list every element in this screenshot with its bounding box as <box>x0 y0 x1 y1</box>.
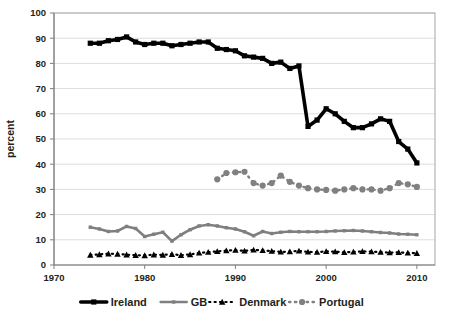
legend-label-denmark[interactable]: Denmark <box>239 296 287 308</box>
series-marker-gb <box>170 239 173 242</box>
series-marker-ireland <box>97 41 102 46</box>
series-marker-gb <box>261 230 264 233</box>
series-marker-ireland <box>124 34 129 39</box>
series-marker-gb <box>252 234 255 237</box>
y-axis-tick-label: 70 <box>35 83 46 94</box>
series-marker-ireland <box>151 41 156 46</box>
series-marker-ireland <box>115 37 120 42</box>
series-marker-gb <box>152 233 155 236</box>
series-marker-ireland <box>206 39 211 44</box>
series-marker-ireland <box>88 41 93 46</box>
series-marker-portugal <box>278 172 284 178</box>
series-marker-gb <box>388 231 391 234</box>
series-marker-ireland <box>342 119 347 124</box>
series-marker-gb <box>297 230 300 233</box>
series-marker-ireland <box>260 56 265 61</box>
series-marker-gb <box>334 229 337 232</box>
series-marker-portugal <box>314 186 320 192</box>
x-axis-tick-label: 1970 <box>43 272 64 283</box>
y-axis-tick-label: 40 <box>35 159 46 170</box>
series-marker-gb <box>225 226 228 229</box>
series-marker-portugal <box>305 185 311 191</box>
series-marker-portugal <box>359 186 365 192</box>
series-marker-ireland <box>278 60 283 65</box>
series-marker-gb <box>343 229 346 232</box>
series-marker-gb <box>107 230 110 233</box>
legend-label-gb[interactable]: GB <box>191 296 208 308</box>
x-axis-tick-label: 1990 <box>225 272 246 283</box>
series-marker-portugal <box>241 169 247 175</box>
x-axis-tick-label: 2000 <box>316 272 337 283</box>
series-marker-gb <box>361 229 364 232</box>
series-marker-gb <box>279 231 282 234</box>
series-marker-portugal <box>287 179 293 185</box>
series-marker-gb <box>234 227 237 230</box>
legend-label-ireland[interactable]: Ireland <box>111 296 147 308</box>
series-marker-ireland <box>351 125 356 130</box>
series-marker-portugal <box>296 183 302 189</box>
series-marker-ireland <box>314 118 319 123</box>
legend-marker-portugal <box>299 299 305 305</box>
x-axis-tick-label: 2010 <box>406 272 427 283</box>
y-axis-tick-label: 10 <box>35 234 46 245</box>
y-axis-tick-label: 0 <box>41 259 46 270</box>
series-marker-ireland <box>378 116 383 121</box>
series-marker-gb <box>89 226 92 229</box>
y-axis-tick-label: 90 <box>35 33 46 44</box>
series-marker-portugal <box>396 180 402 186</box>
series-marker-gb <box>116 229 119 232</box>
series-marker-gb <box>207 223 210 226</box>
series-marker-ireland <box>296 63 301 68</box>
y-axis-tick-label: 100 <box>30 7 46 18</box>
series-marker-portugal <box>414 184 420 190</box>
series-marker-ireland <box>396 139 401 144</box>
series-marker-gb <box>315 230 318 233</box>
legend-marker-gb <box>172 300 175 303</box>
series-marker-gb <box>143 235 146 238</box>
series-marker-portugal <box>405 181 411 187</box>
series-marker-gb <box>134 227 137 230</box>
series-marker-portugal <box>269 180 275 186</box>
series-marker-gb <box>98 227 101 230</box>
series-marker-gb <box>243 230 246 233</box>
legend-marker-ireland <box>91 299 96 304</box>
series-marker-portugal <box>332 188 338 194</box>
series-marker-gb <box>306 230 309 233</box>
series-marker-ireland <box>242 53 247 58</box>
series-marker-portugal <box>223 170 229 176</box>
series-marker-ireland <box>160 41 165 46</box>
legend-label-portugal[interactable]: Portugal <box>319 296 364 308</box>
series-marker-ireland <box>324 106 329 111</box>
series-marker-gb <box>352 229 355 232</box>
series-marker-ireland <box>387 119 392 124</box>
series-marker-ireland <box>215 46 220 51</box>
series-marker-portugal <box>214 176 220 182</box>
series-marker-gb <box>125 225 128 228</box>
series-marker-portugal <box>232 169 238 175</box>
series-marker-gb <box>197 224 200 227</box>
series-marker-ireland <box>287 66 292 71</box>
series-marker-ireland <box>414 160 419 165</box>
series-marker-ireland <box>405 146 410 151</box>
series-marker-ireland <box>251 55 256 60</box>
series-marker-ireland <box>333 111 338 116</box>
series-marker-ireland <box>169 43 174 48</box>
series-marker-ireland <box>269 61 274 66</box>
series-marker-gb <box>415 233 418 236</box>
y-axis-tick-label: 60 <box>35 108 46 119</box>
x-axis-tick-label: 1980 <box>134 272 155 283</box>
chart-container: 0102030405060708090100197019801990200020… <box>0 0 450 316</box>
series-marker-portugal <box>368 186 374 192</box>
series-marker-ireland <box>142 42 147 47</box>
y-axis-tick-label: 20 <box>35 209 46 220</box>
series-marker-gb <box>288 230 291 233</box>
series-marker-gb <box>216 224 219 227</box>
series-marker-gb <box>397 232 400 235</box>
series-marker-ireland <box>369 121 374 126</box>
series-marker-portugal <box>350 185 356 191</box>
series-marker-gb <box>179 233 182 236</box>
series-marker-gb <box>370 230 373 233</box>
series-marker-ireland <box>187 41 192 46</box>
series-marker-ireland <box>133 39 138 44</box>
series-marker-ireland <box>305 124 310 129</box>
